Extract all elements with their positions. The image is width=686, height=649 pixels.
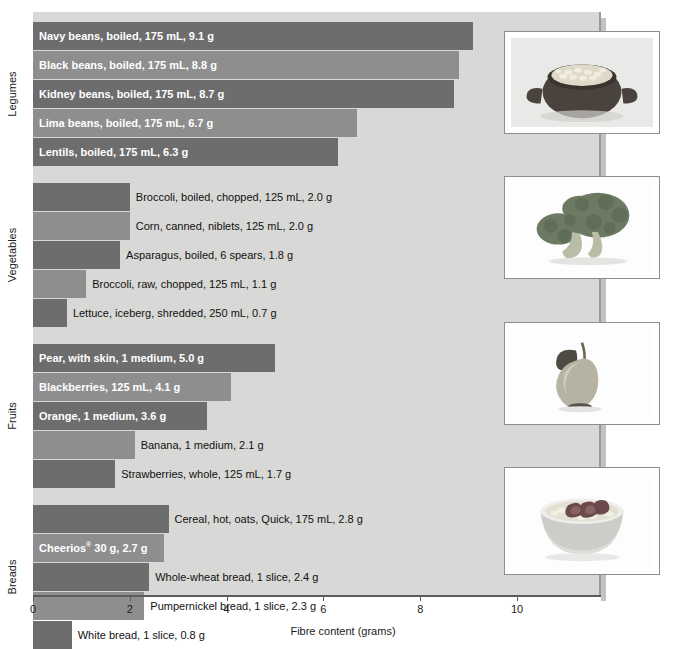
photo-frame-fruits <box>504 322 660 425</box>
bar-label: Blackberries, 125 mL, 4.1 g <box>39 373 180 401</box>
bar-label: Orange, 1 medium, 3.6 g <box>39 402 166 430</box>
group-label-vegetables: Vegetables <box>6 195 18 315</box>
bowl-of-cereal-with-strawberries-photo <box>511 474 653 568</box>
pear-photo <box>511 329 653 418</box>
bar <box>33 299 67 327</box>
x-axis-tick <box>33 595 34 601</box>
bar-label: Broccoli, raw, chopped, 125 mL, 1.1 g <box>92 270 276 298</box>
bar-label: Whole-wheat bread, 1 slice, 2.4 g <box>155 563 318 591</box>
x-axis-tick-label: 8 <box>417 603 423 615</box>
x-axis-tick <box>130 595 131 601</box>
photo-frame-breads <box>504 467 660 575</box>
bar <box>33 460 115 488</box>
bar-label: Strawberries, whole, 125 mL, 1.7 g <box>121 460 291 488</box>
x-axis-tick <box>420 595 421 601</box>
group-label-breads: Breads <box>6 517 18 637</box>
bowl-of-beans-photo <box>511 38 653 127</box>
bar <box>33 431 135 459</box>
bar <box>33 270 86 298</box>
bar-label: Kidney beans, boiled, 175 mL, 8.7 g <box>39 80 224 108</box>
x-axis-tick-label: 0 <box>30 603 36 615</box>
broccoli-photo <box>511 183 653 272</box>
bar-label: Lentils, boiled, 175 mL, 6.3 g <box>39 138 188 166</box>
bar <box>33 241 120 269</box>
bar-label: Cheerios® 30 g, 2.7 g <box>39 534 148 562</box>
x-axis-line <box>33 595 601 597</box>
bar-label: Lettuce, iceberg, shredded, 250 mL, 0.7 … <box>73 299 277 327</box>
bar-label: Navy beans, boiled, 175 mL, 9.1 g <box>39 22 214 50</box>
x-axis-tick-label: 4 <box>224 603 230 615</box>
bar-label: Black beans, boiled, 175 mL, 8.8 g <box>39 51 217 79</box>
group-label-legumes: Legumes <box>6 34 18 154</box>
bar-label: Corn, canned, niblets, 125 mL, 2.0 g <box>136 212 313 240</box>
x-axis-tick-label: 2 <box>127 603 133 615</box>
bar-label: Pear, with skin, 1 medium, 5.0 g <box>39 344 204 372</box>
x-axis-title: Fibre content (grams) <box>0 625 686 637</box>
x-axis-tick-label: 6 <box>320 603 326 615</box>
bar-label: Banana, 1 medium, 2.1 g <box>141 431 264 459</box>
x-axis-tick <box>227 595 228 601</box>
photo-frame-vegetables <box>504 176 660 279</box>
x-axis-tick <box>323 595 324 601</box>
bar <box>33 183 130 211</box>
photo-frame-legumes <box>504 31 660 134</box>
bar <box>33 563 149 591</box>
x-axis-tick-label: 10 <box>511 603 523 615</box>
bar <box>33 212 130 240</box>
bar-label: Lima beans, boiled, 175 mL, 6.7 g <box>39 109 213 137</box>
x-axis-tick <box>517 595 518 601</box>
bar-label: Broccoli, boiled, chopped, 125 mL, 2.0 g <box>136 183 332 211</box>
bar-label: Cereal, hot, oats, Quick, 175 mL, 2.8 g <box>175 505 363 533</box>
bar <box>33 505 169 533</box>
bar-label: Asparagus, boiled, 6 spears, 1.8 g <box>126 241 293 269</box>
group-label-fruits: Fruits <box>6 356 18 476</box>
